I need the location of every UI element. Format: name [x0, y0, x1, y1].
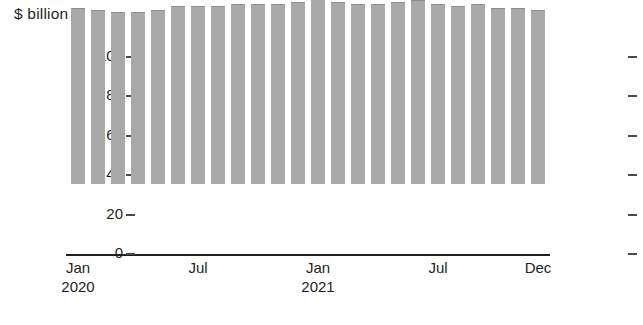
bar [71, 9, 85, 184]
bar-segment-upper [271, 4, 285, 74]
bar [391, 3, 405, 184]
bar-segment-lower [111, 71, 125, 184]
y-axis-tick-mark-right [628, 174, 637, 176]
bar [411, 1, 425, 184]
x-axis-month-label: Dec [525, 258, 552, 277]
bar [151, 11, 165, 184]
bar [251, 5, 265, 184]
x-axis-month-label: Jan [301, 258, 334, 277]
bar-segment-upper [351, 4, 365, 74]
bar-segment-lower [491, 77, 505, 184]
bar-segment-lower [151, 73, 165, 184]
bar-segment-upper [491, 8, 505, 78]
bar-segment-lower [191, 71, 205, 184]
bar [471, 5, 485, 184]
bar-segment-upper [451, 6, 465, 76]
x-axis-tick-label: Dec [525, 258, 552, 277]
x-axis-tick-label: Jan2020 [61, 258, 94, 297]
bar-segment-lower [271, 73, 285, 184]
bar-segment-upper [131, 12, 145, 74]
bar-segment-lower [171, 71, 185, 184]
bar-segment-upper [371, 4, 385, 74]
x-axis-tick-label: Jan2021 [301, 258, 334, 297]
bar-segment-upper [231, 4, 245, 74]
y-axis-tick-mark-right [628, 56, 637, 58]
bar-series-group [68, 0, 548, 255]
bar-segment-upper [151, 10, 165, 74]
bar-segment-lower [431, 75, 445, 184]
bar [351, 5, 365, 184]
bar-segment-lower [331, 73, 345, 184]
bar [271, 5, 285, 184]
bar [451, 7, 465, 184]
bar [531, 11, 545, 184]
chart-figure: $ billion 100806040200 Jan2020JulJan2021… [0, 0, 643, 325]
bar [211, 7, 225, 184]
bar-segment-upper [91, 10, 105, 70]
bar [231, 5, 245, 184]
bar-segment-lower [251, 73, 265, 184]
bar [371, 5, 385, 184]
x-axis-month-label: Jan [61, 258, 94, 277]
bar [291, 3, 305, 184]
bar-segment-lower [131, 73, 145, 184]
bar-segment-lower [311, 73, 325, 184]
bar-segment-upper [171, 6, 185, 72]
bar-segment-lower [291, 73, 305, 184]
y-axis-unit-label: $ billion [14, 5, 68, 23]
bar-segment-lower [531, 77, 545, 184]
bar-segment-lower [471, 75, 485, 184]
bar-segment-upper [251, 4, 265, 74]
bar-segment-upper [191, 6, 205, 72]
bar-segment-upper [531, 10, 545, 78]
x-axis-labels: Jan2020JulJan2021JulDec [0, 258, 643, 318]
x-axis-month-label: Jul [428, 258, 447, 277]
bar-segment-lower [91, 69, 105, 184]
bar-segment-lower [511, 77, 525, 184]
bar [311, 0, 325, 184]
bar [191, 7, 205, 184]
bar-segment-lower [71, 67, 85, 184]
y-axis-tick-mark-right [628, 214, 637, 216]
bar-segment-upper [71, 8, 85, 68]
bar [111, 13, 125, 184]
bar-segment-upper [411, 0, 425, 74]
bar [331, 3, 345, 184]
bar [431, 5, 445, 184]
bar [91, 11, 105, 184]
bar-segment-lower [391, 73, 405, 184]
x-axis-year-label: 2021 [301, 277, 334, 297]
bar-segment-lower [211, 73, 225, 184]
bar-segment-upper [111, 12, 125, 72]
bar-segment-upper [291, 2, 305, 74]
bar [511, 9, 525, 184]
y-axis-tick-mark-right [628, 135, 637, 137]
bar-segment-upper [391, 2, 405, 74]
bar-segment-upper [471, 4, 485, 76]
bar [491, 9, 505, 184]
bar-segment-lower [411, 73, 425, 184]
y-axis-tick-mark-right [628, 95, 637, 97]
bar-segment-upper [211, 6, 225, 74]
y-axis-tick-mark-right [628, 253, 637, 255]
bar-segment-lower [451, 75, 465, 184]
x-axis-year-label: 2020 [61, 277, 94, 297]
x-axis-tick-label: Jul [188, 258, 207, 277]
bar-segment-lower [351, 73, 365, 184]
bar-segment-upper [511, 8, 525, 78]
bar-segment-lower [231, 73, 245, 184]
bar-segment-upper [331, 2, 345, 74]
bar-segment-upper [311, 0, 325, 74]
x-axis-tick-label: Jul [428, 258, 447, 277]
bar-segment-upper [431, 4, 445, 76]
bar-segment-lower [371, 73, 385, 184]
bar [131, 13, 145, 184]
x-axis-month-label: Jul [188, 258, 207, 277]
bar [171, 7, 185, 184]
